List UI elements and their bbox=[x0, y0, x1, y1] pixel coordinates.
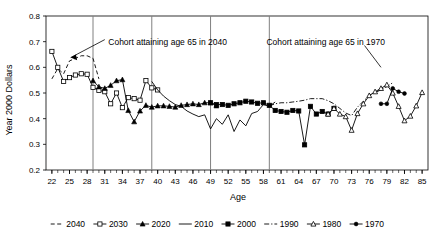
x-tick-label-55: 55 bbox=[241, 177, 250, 186]
series-marker-2030-25 bbox=[67, 76, 71, 80]
series-marker-2000-57 bbox=[255, 101, 259, 105]
x-tick-label-73: 73 bbox=[347, 177, 356, 186]
series-marker-2030-26 bbox=[73, 73, 77, 77]
series-marker-2000-54 bbox=[238, 101, 242, 105]
y-tick-label-0.2: 0.2 bbox=[29, 166, 41, 175]
x-tick-label-25: 25 bbox=[65, 177, 74, 186]
series-marker-2000-68 bbox=[320, 109, 324, 113]
y-tick-label-0.5: 0.5 bbox=[29, 89, 41, 98]
series-marker-2030-35 bbox=[126, 96, 130, 100]
series-marker-2000-67 bbox=[314, 112, 318, 116]
x-tick-label-49: 49 bbox=[206, 177, 215, 186]
series-marker-2000-63 bbox=[291, 108, 295, 112]
legend-marker-1970 bbox=[354, 222, 358, 226]
series-marker-2030-39 bbox=[150, 86, 154, 90]
series-marker-1970-82 bbox=[403, 92, 407, 96]
y-tick-label-0.6: 0.6 bbox=[29, 63, 41, 72]
series-marker-2000-60 bbox=[273, 108, 277, 112]
series-marker-2030-28 bbox=[85, 72, 89, 76]
series-marker-2030-29 bbox=[91, 85, 95, 89]
x-tick-label-34: 34 bbox=[118, 177, 127, 186]
x-tick-label-40: 40 bbox=[153, 177, 162, 186]
x-tick-label-22: 22 bbox=[47, 177, 56, 186]
chart-root: 0.20.30.40.50.60.70.8 222528313437404346… bbox=[0, 0, 435, 238]
annotation-label-2040: Cohort attaining age 65 in 2040 bbox=[108, 37, 227, 47]
legend-label-1970: 1970 bbox=[365, 219, 384, 229]
legend-marker-2000 bbox=[226, 222, 230, 226]
y-tick-label-0.8: 0.8 bbox=[29, 12, 41, 21]
x-tick-label-58: 58 bbox=[259, 177, 268, 186]
y-axis-title: Year 2000 Dollars bbox=[4, 64, 14, 136]
x-tick-label-37: 37 bbox=[136, 177, 145, 186]
x-tick-label-28: 28 bbox=[83, 177, 92, 186]
legend-label-2020: 2020 bbox=[152, 219, 171, 229]
y-tick-label-0.3: 0.3 bbox=[29, 140, 41, 149]
series-marker-2000-53 bbox=[232, 102, 236, 106]
x-tick-label-52: 52 bbox=[224, 177, 233, 186]
series-marker-2000-62 bbox=[285, 110, 289, 114]
y-tick-label-0.7: 0.7 bbox=[29, 38, 41, 47]
series-marker-2000-61 bbox=[279, 109, 283, 113]
series-marker-2000-49 bbox=[208, 101, 212, 105]
legend-label-1980: 1980 bbox=[322, 219, 341, 229]
series-marker-1970-78 bbox=[379, 102, 383, 106]
series-marker-2030-33 bbox=[114, 91, 118, 95]
x-tick-label-31: 31 bbox=[100, 177, 109, 186]
x-tick-label-61: 61 bbox=[277, 177, 286, 186]
x-tick-label-64: 64 bbox=[294, 177, 303, 186]
legend-label-2000: 2000 bbox=[237, 219, 256, 229]
series-marker-2000-65 bbox=[302, 143, 306, 147]
series-marker-1970-80 bbox=[391, 86, 395, 90]
x-tick-label-67: 67 bbox=[312, 177, 321, 186]
series-marker-2030-36 bbox=[132, 97, 136, 101]
legend-label-1990: 1990 bbox=[280, 219, 299, 229]
series-marker-2000-51 bbox=[220, 102, 224, 106]
legend-label-2010: 2010 bbox=[194, 219, 213, 229]
x-tick-label-85: 85 bbox=[418, 177, 427, 186]
cohort-earnings-line-chart: 0.20.30.40.50.60.70.8 222528313437404346… bbox=[0, 0, 435, 238]
series-marker-2030-38 bbox=[144, 79, 148, 83]
x-axis-title: Age bbox=[230, 192, 246, 202]
legend-label-2040: 2040 bbox=[66, 219, 85, 229]
annotation-label-1970: Cohort attaining age 65 in 1970 bbox=[266, 37, 385, 47]
x-tick-label-43: 43 bbox=[171, 177, 180, 186]
series-marker-2030-32 bbox=[109, 102, 113, 106]
x-tick-label-79: 79 bbox=[382, 177, 391, 186]
x-tick-label-46: 46 bbox=[188, 177, 197, 186]
legend-label-2030: 2030 bbox=[109, 219, 128, 229]
series-marker-2030-34 bbox=[120, 106, 124, 110]
series-marker-2000-55 bbox=[244, 99, 248, 103]
series-marker-2000-56 bbox=[250, 100, 254, 104]
series-marker-2000-66 bbox=[308, 104, 312, 108]
series-marker-2000-50 bbox=[214, 102, 218, 106]
x-tick-label-76: 76 bbox=[365, 177, 374, 186]
series-marker-2030-27 bbox=[79, 72, 83, 76]
series-marker-1970-79 bbox=[385, 102, 389, 106]
legend-marker-2030 bbox=[98, 222, 102, 226]
x-tick-label-70: 70 bbox=[330, 177, 339, 186]
series-marker-2000-58 bbox=[261, 101, 265, 105]
series-marker-2000-64 bbox=[297, 109, 301, 113]
series-marker-2030-24 bbox=[62, 79, 66, 83]
series-marker-2000-52 bbox=[226, 103, 230, 107]
series-marker-2030-23 bbox=[56, 65, 60, 69]
y-tick-label-0.4: 0.4 bbox=[29, 115, 41, 124]
series-marker-2030-22 bbox=[50, 49, 54, 53]
series-marker-1970-81 bbox=[397, 90, 401, 94]
series-marker-2030-37 bbox=[138, 98, 142, 102]
x-tick-label-82: 82 bbox=[400, 177, 409, 186]
